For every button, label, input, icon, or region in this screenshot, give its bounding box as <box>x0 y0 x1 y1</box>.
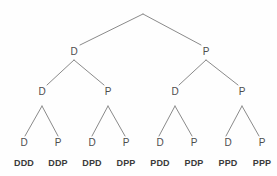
tree-node-n-PPD: D <box>216 138 240 148</box>
tree-node-n-DD: D <box>30 87 54 97</box>
tree-edge-n-PP-to-n-PPP <box>242 106 259 136</box>
tree-node-n-PDD: D <box>148 138 172 148</box>
tree-node-n-DPP: P <box>114 138 138 148</box>
tree-node-n-DPD: D <box>80 138 104 148</box>
tree-node-n-PPP: P <box>250 138 274 148</box>
tree-edge-n-DD-to-n-DDD <box>25 106 42 136</box>
tree-outcome-o-PDD: PDD <box>142 159 178 168</box>
tree-node-n-PD: D <box>163 87 187 97</box>
tree-node-n-DDP: P <box>46 138 70 148</box>
tree-outcome-o-PPP: PPP <box>244 159 277 168</box>
tree-edge-n-PP-to-n-PPD <box>226 106 242 136</box>
tree-edge-n-DP-to-n-DPD <box>92 106 108 136</box>
tree-node-n-PP: P <box>230 87 254 97</box>
tree-outcome-o-PPD: PPD <box>210 159 246 168</box>
tree-outcome-o-DPD: DPD <box>74 159 110 168</box>
tree-node-n-P: P <box>194 47 218 57</box>
tree-edge-n-DP-to-n-DPP <box>108 106 125 136</box>
binary-tree-diagram: DPDPDPDPDPDPDP DDDDDPDPDDPPPDDPDPPPDPPP <box>0 0 277 176</box>
tree-edge-n-D-to-n-DD <box>47 60 74 85</box>
tree-outcome-o-PDP: PDP <box>176 159 212 168</box>
tree-node-n-DP: P <box>96 87 120 97</box>
tree-edge-root-to-n-D <box>80 14 143 45</box>
tree-edge-n-P-to-n-PP <box>206 60 238 85</box>
tree-edge-n-PD-to-n-PDP <box>175 106 192 136</box>
tree-node-n-PDP: P <box>182 138 206 148</box>
tree-outcome-o-DDD: DDD <box>6 159 42 168</box>
tree-node-n-D: D <box>62 47 86 57</box>
tree-node-n-DDD: D <box>12 138 36 148</box>
tree-edge-root-to-n-P <box>143 14 201 45</box>
tree-edge-n-DD-to-n-DDP <box>42 106 58 136</box>
tree-outcome-o-DPP: DPP <box>108 159 144 168</box>
tree-outcome-o-DDP: DDP <box>40 159 76 168</box>
tree-edge-n-PD-to-n-PDD <box>159 106 175 136</box>
tree-edge-n-D-to-n-DP <box>74 60 104 85</box>
tree-edge-n-P-to-n-PD <box>179 60 206 85</box>
